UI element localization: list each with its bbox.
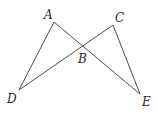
segment-cd — [19, 25, 113, 90]
label-d: D — [6, 92, 17, 106]
segment-ae — [54, 22, 140, 94]
label-b: B — [77, 52, 87, 66]
label-c: C — [115, 11, 124, 25]
geometry-diagram: A C B D E — [0, 0, 157, 113]
label-a: A — [43, 8, 53, 22]
label-e: E — [141, 95, 151, 109]
segment-ce — [113, 25, 140, 94]
segment-ad — [19, 22, 54, 90]
